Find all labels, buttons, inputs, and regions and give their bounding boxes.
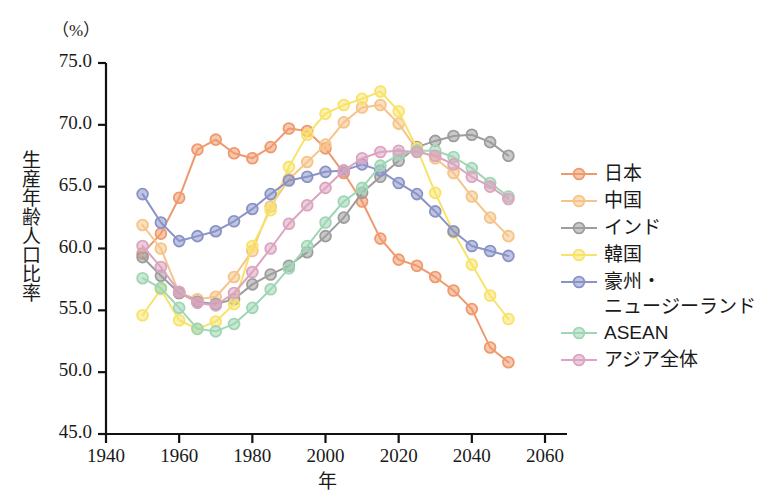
data-point xyxy=(320,231,331,242)
data-point xyxy=(503,231,514,242)
data-point xyxy=(137,189,148,200)
data-point xyxy=(338,212,349,223)
data-point xyxy=(393,106,404,117)
data-point xyxy=(155,217,166,228)
data-point xyxy=(466,241,477,252)
data-point xyxy=(466,191,477,202)
legend-item-2[interactable]: インド xyxy=(560,214,775,241)
data-point xyxy=(485,137,496,148)
data-point xyxy=(338,100,349,111)
data-point xyxy=(430,150,441,161)
data-point xyxy=(192,231,203,242)
data-point xyxy=(137,241,148,252)
legend-label: 日本 xyxy=(598,163,642,185)
legend-label: 中国 xyxy=(598,190,642,212)
data-point xyxy=(229,148,240,159)
data-point xyxy=(393,145,404,156)
data-point xyxy=(247,241,258,252)
data-point xyxy=(320,139,331,150)
legend-label: 豪州・ xyxy=(598,271,661,293)
data-point xyxy=(247,302,258,313)
data-point xyxy=(320,108,331,119)
data-point xyxy=(375,86,386,97)
data-point xyxy=(229,319,240,330)
chart-legend: 日本中国インド韓国豪州・ニュージーランドASEANアジア全体 xyxy=(560,160,775,373)
data-point xyxy=(155,262,166,273)
legend-label: インド xyxy=(598,217,661,239)
data-point xyxy=(265,284,276,295)
data-point xyxy=(284,218,295,229)
data-point xyxy=(393,254,404,265)
legend-item-3[interactable]: 韓国 xyxy=(560,241,775,268)
legend-item-5[interactable]: ASEAN xyxy=(560,319,775,346)
legend-item-0[interactable]: 日本 xyxy=(560,160,775,187)
data-point xyxy=(320,166,331,177)
data-point xyxy=(229,288,240,299)
data-point xyxy=(284,263,295,274)
legend-marker-icon xyxy=(560,166,598,182)
data-point xyxy=(320,217,331,228)
data-point xyxy=(284,161,295,172)
legend-marker-icon xyxy=(560,325,598,341)
legend-item-4[interactable]: 豪州・ xyxy=(560,268,775,295)
data-point xyxy=(174,236,185,247)
data-point xyxy=(375,160,386,171)
data-point xyxy=(247,279,258,290)
data-point xyxy=(375,233,386,244)
data-point xyxy=(265,205,276,216)
legend-label-continuation: ニュージーランド xyxy=(560,295,775,319)
data-point xyxy=(466,304,477,315)
data-point xyxy=(338,117,349,128)
data-point xyxy=(485,290,496,301)
data-point xyxy=(320,183,331,194)
data-point xyxy=(174,192,185,203)
data-point xyxy=(338,165,349,176)
data-point xyxy=(485,181,496,192)
data-point xyxy=(192,323,203,334)
data-point xyxy=(210,226,221,237)
data-point xyxy=(485,246,496,257)
data-point xyxy=(338,196,349,207)
data-point xyxy=(466,129,477,140)
data-point xyxy=(155,243,166,254)
data-point xyxy=(503,357,514,368)
data-point xyxy=(448,285,459,296)
data-point xyxy=(503,150,514,161)
legend-marker-icon xyxy=(560,274,598,290)
data-point xyxy=(210,300,221,311)
data-point xyxy=(302,129,313,140)
data-point xyxy=(247,267,258,278)
legend-marker-icon xyxy=(560,220,598,236)
data-point xyxy=(137,252,148,263)
legend-item-1[interactable]: 中国 xyxy=(560,187,775,214)
data-point xyxy=(174,286,185,297)
data-point xyxy=(210,134,221,145)
legend-item-6[interactable]: アジア全体 xyxy=(560,346,775,373)
data-point xyxy=(155,283,166,294)
data-point xyxy=(375,147,386,158)
data-point xyxy=(503,251,514,262)
data-point xyxy=(466,171,477,182)
data-point xyxy=(247,204,258,215)
data-point xyxy=(448,159,459,170)
data-point xyxy=(247,153,258,164)
data-point xyxy=(375,100,386,111)
data-point xyxy=(302,157,313,168)
data-point xyxy=(192,144,203,155)
data-point xyxy=(430,206,441,217)
legend-label: ASEAN xyxy=(598,322,668,344)
data-point xyxy=(302,241,313,252)
data-point xyxy=(229,299,240,310)
data-point xyxy=(265,189,276,200)
data-point xyxy=(448,226,459,237)
legend-marker-icon xyxy=(560,247,598,263)
data-point xyxy=(448,131,459,142)
data-point xyxy=(485,342,496,353)
data-point xyxy=(210,326,221,337)
legend-marker-icon xyxy=(560,193,598,209)
data-point xyxy=(137,273,148,284)
legend-marker-icon xyxy=(560,352,598,368)
data-point xyxy=(503,194,514,205)
data-point xyxy=(174,302,185,313)
legend-label: 韓国 xyxy=(598,244,642,266)
